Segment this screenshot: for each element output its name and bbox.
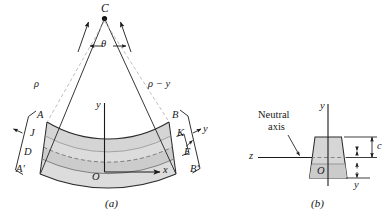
label-radius-rho-minus-y: ρ − y [148,79,170,90]
figure-container: C θ ρ ρ − y y x O A J D A' B K E B' y (a… [0,0,385,223]
figure-drawing [0,0,385,223]
caption-panel-b: (b) [311,197,324,209]
label-point-a: A [37,110,43,121]
caption-panel-a: (a) [105,197,118,209]
label-center-of-curvature: C [101,3,109,15]
label-point-d: D [24,147,32,158]
neutral-axis-leader [288,135,300,156]
label-neutral-axis-line2: axis [268,122,285,133]
label-panel-b-origin: O [317,166,325,177]
label-radius-rho: ρ [34,79,39,90]
label-panel-a-x-axis: x [163,165,168,176]
label-panel-b-y-axis: y [320,101,325,112]
label-point-a-prime: A' [16,164,25,175]
label-panel-a-bracket-y: y [203,124,208,135]
label-point-b: B [172,110,178,121]
label-point-k: K [177,128,184,139]
label-panel-a-y-axis: y [96,100,101,111]
label-point-j: J [30,128,35,139]
label-dimension-y: y [354,180,359,191]
curved-beam-body [40,122,176,188]
label-neutral-axis-line1: Neutral [258,110,290,121]
label-panel-a-origin: O [92,172,100,183]
dimension-c [344,137,377,158]
label-panel-b-z-axis: z [249,151,253,162]
label-dimension-c: c [377,141,382,152]
label-point-b-prime: B' [190,164,199,175]
label-angle-theta: θ [101,39,106,50]
radius-dashed-lines [48,21,169,122]
label-point-e: E [184,147,190,158]
dimension-y [346,163,370,178]
